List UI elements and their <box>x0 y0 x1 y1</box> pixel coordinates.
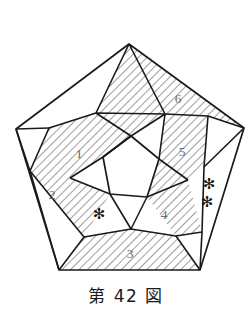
asterisk-mark-upper: ✻ <box>203 175 216 193</box>
face-label-3: 3 <box>127 246 134 261</box>
face-label-4: 4 <box>161 207 168 222</box>
face-label-1: 1 <box>76 146 83 161</box>
edge-left-vertex-to-ring <box>16 128 49 129</box>
face-label-2: 2 <box>49 187 56 202</box>
figure-caption: 第 42 図 <box>0 282 252 307</box>
dodecahedron-projection-drawing: 1 2 3 4 5 6 ✻ ✻ ✻ <box>0 0 252 325</box>
asterisk-mark-single: ✻ <box>93 205 106 223</box>
face-label-6: 6 <box>175 91 182 106</box>
face-label-5: 5 <box>179 144 186 159</box>
figure-container: 1 2 3 4 5 6 ✻ ✻ ✻ 第 42 図 <box>0 0 252 325</box>
asterisk-mark-lower: ✻ <box>201 193 214 211</box>
